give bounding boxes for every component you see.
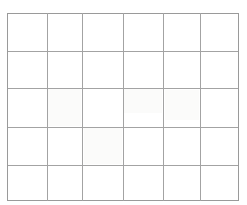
table-cell-r2-c1[interactable] [7,51,47,88]
table-cell-r3-c3[interactable] [82,88,123,127]
table-cell-r2-c2[interactable] [47,51,82,88]
table-cell-r3-c6[interactable] [200,88,238,127]
grid-line-vertical-4 [123,13,124,201]
table-cell-r2-c6[interactable] [200,51,238,88]
table-cell-r4-c6[interactable] [200,127,238,165]
table-cell-r4-c3[interactable] [82,127,123,165]
table-cell-r1-c6[interactable] [200,13,238,51]
table-cell-r3-c5[interactable] [163,88,200,127]
table-cell-r1-c2[interactable] [47,13,82,51]
table-cell-r5-c2[interactable] [47,165,82,200]
table-cell-r4-c1[interactable] [7,127,47,165]
table-cell-r3-c2[interactable] [47,88,82,127]
grid-line-vertical-7 [238,13,239,201]
table-cell-r2-c5[interactable] [163,51,200,88]
table-cell-r5-c5[interactable] [163,165,200,200]
table-cell-r5-c4[interactable] [123,165,163,200]
table-cell-r4-c5[interactable] [163,127,200,165]
grid-line-vertical-5 [163,13,164,201]
table-cell-r2-c4[interactable] [123,51,163,88]
table-cell-r3-c1[interactable] [7,88,47,127]
table-cell-r1-c1[interactable] [7,13,47,51]
table-cell-r1-c5[interactable] [163,13,200,51]
grid-line-vertical-6 [200,13,201,201]
table-cell-r1-c4[interactable] [123,13,163,51]
table-cell-r2-c3[interactable] [82,51,123,88]
table-cell-r5-c3[interactable] [82,165,123,200]
grid-line-vertical-2 [47,13,48,201]
grid-line-vertical-3 [82,13,83,201]
table-cell-r4-c4[interactable] [123,127,163,165]
grid-table-figure [0,0,247,205]
table-cell-r5-c6[interactable] [200,165,238,200]
table-cell-r5-c1[interactable] [7,165,47,200]
table-cell-r3-c4[interactable] [123,88,163,127]
grid-line-vertical-1 [7,13,8,201]
table-cell-r4-c2[interactable] [47,127,82,165]
table-cell-r1-c3[interactable] [82,13,123,51]
